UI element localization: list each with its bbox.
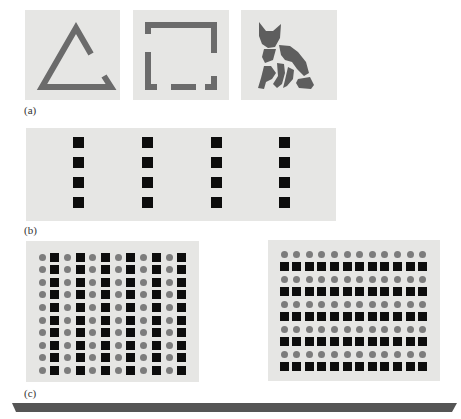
bottom-bar	[0, 0, 461, 419]
